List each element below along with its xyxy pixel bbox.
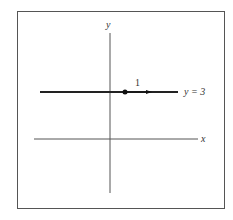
y-axis-label: y (106, 20, 110, 30)
vector-label: 1 (135, 78, 140, 88)
x-axis-label: x (201, 134, 205, 144)
line-equation-label: y = 3 (184, 87, 205, 97)
arrowhead-icon (146, 90, 152, 94)
coordinate-plot (0, 0, 233, 220)
